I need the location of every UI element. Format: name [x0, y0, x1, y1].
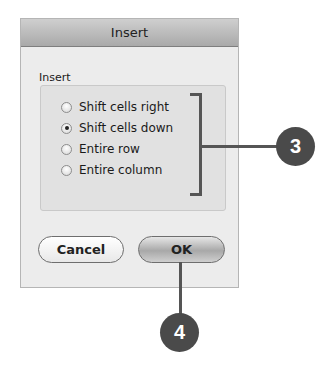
- callout-badge-3: 3: [276, 127, 315, 166]
- radio-unselected-icon[interactable]: [61, 144, 72, 155]
- insert-dialog: Insert Insert Shift cells right Shift ce…: [20, 18, 239, 288]
- cancel-button[interactable]: Cancel: [38, 236, 124, 263]
- option-entire-row[interactable]: Entire row: [61, 140, 140, 158]
- option-entire-column[interactable]: Entire column: [61, 161, 162, 179]
- callout-line-4: [179, 262, 182, 316]
- callout-bracket: [190, 93, 202, 196]
- radio-unselected-icon[interactable]: [61, 165, 72, 176]
- radio-selected-icon[interactable]: [61, 123, 72, 134]
- group-label: Insert: [39, 71, 71, 84]
- option-shift-cells-down[interactable]: Shift cells down: [61, 119, 173, 137]
- dialog-title: Insert: [21, 19, 238, 47]
- callout-badge-4: 4: [160, 313, 199, 352]
- radio-unselected-icon[interactable]: [61, 102, 72, 113]
- callout-line-3: [202, 145, 278, 148]
- option-shift-cells-right[interactable]: Shift cells right: [61, 98, 169, 116]
- ok-button[interactable]: OK: [138, 236, 225, 263]
